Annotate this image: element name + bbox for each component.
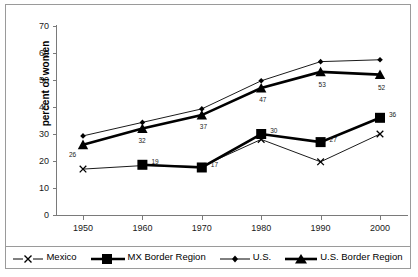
legend-label-us: U.S.: [253, 252, 271, 262]
data-point-label: 32: [138, 137, 145, 144]
filled-diamond-marker-icon: [318, 59, 324, 65]
filled-square-marker-icon: [137, 160, 147, 170]
filled-square-marker-icon: [256, 129, 266, 139]
filled-diamond-marker-icon: [377, 57, 383, 63]
legend-item-mexico[interactable]: Mexico: [13, 251, 76, 263]
x-cross-marker-icon: [13, 251, 43, 263]
series-line-mx-border-region: [142, 118, 380, 168]
data-point-label: 19: [151, 158, 158, 165]
chart-figure: percent of women 706050403020100 1950196…: [0, 0, 418, 277]
series-line-u-s-border-region: [83, 72, 380, 145]
legend-label-mx-border-region: MX Border Region: [128, 252, 206, 262]
data-point-label: 53: [319, 81, 326, 88]
filled-triangle-marker-icon: [285, 251, 317, 263]
filled-diamond-marker-icon: [80, 133, 86, 139]
filled-diamond-marker-icon: [258, 78, 264, 84]
chart-legend: Mexico MX Border Region U.S.: [6, 246, 410, 267]
filled-square-marker-icon: [197, 162, 207, 172]
data-point-label: 36: [389, 111, 396, 118]
data-point-label: 17: [211, 161, 218, 168]
legend-item-us-border-region[interactable]: U.S. Border Region: [285, 251, 402, 263]
data-point-label: 47: [259, 96, 266, 103]
filled-square-marker-icon: [316, 137, 326, 147]
series-plot-layer: [0, 0, 418, 277]
filled-square-marker-icon: [91, 251, 125, 263]
data-point-label: 26: [69, 151, 76, 158]
data-point-label: 27: [330, 136, 337, 143]
legend-item-mx-border-region[interactable]: MX Border Region: [91, 251, 206, 263]
data-point-label: 30: [270, 127, 277, 134]
legend-label-mexico: Mexico: [46, 252, 76, 262]
filled-diamond-marker-icon: [220, 251, 250, 263]
x-cross-marker-icon: [377, 131, 384, 138]
filled-square-marker-icon: [375, 113, 385, 123]
x-cross-marker-icon: [317, 159, 324, 166]
data-point-label: 52: [378, 84, 385, 91]
legend-label-us-border-region: U.S. Border Region: [320, 252, 402, 262]
data-point-label: 37: [200, 123, 207, 130]
series-line-u-s: [83, 60, 380, 136]
legend-item-us[interactable]: U.S.: [220, 251, 271, 263]
